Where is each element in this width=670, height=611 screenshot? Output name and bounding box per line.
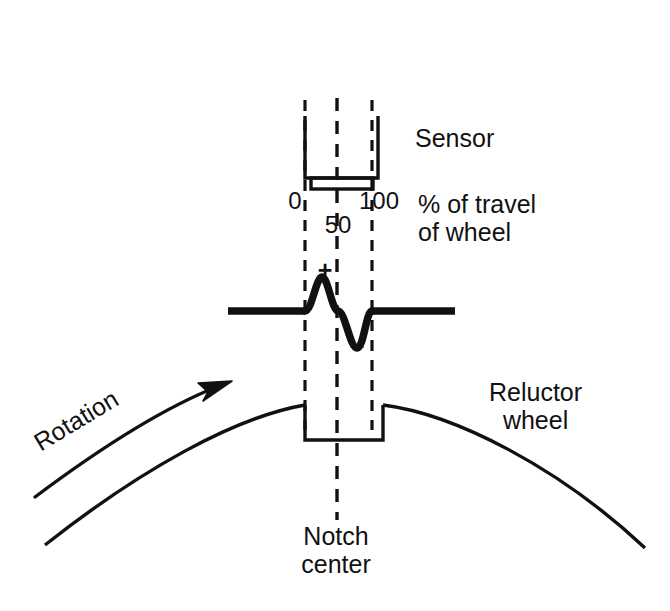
sensor-body — [305, 116, 378, 178]
diagram-canvas: Sensor % of travel of wheel Reluctor whe… — [0, 0, 670, 611]
scale-label-50: 50 — [320, 212, 356, 239]
percent-travel-label: % of travel of wheel — [418, 190, 536, 246]
polarity-negative-label: − — [347, 332, 367, 360]
reluctor-wheel-label: Reluctor wheel — [489, 378, 582, 434]
polarity-positive-label: + — [315, 256, 335, 284]
scale-label-100: 100 — [355, 188, 403, 215]
sensor-label: Sensor — [415, 124, 494, 152]
scale-label-0: 0 — [283, 188, 307, 215]
notch-center-label: Notch center — [281, 522, 391, 578]
reluctor-sensor-diagram — [0, 0, 670, 611]
sensor-output-waveform — [228, 277, 455, 348]
